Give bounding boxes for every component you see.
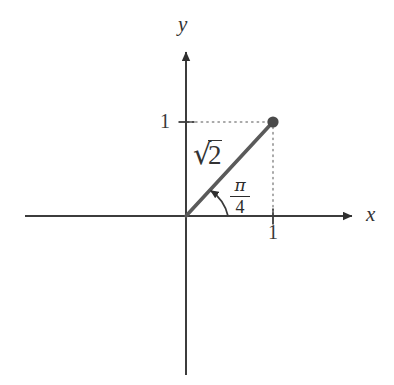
angle-denominator: 4 xyxy=(230,198,250,217)
x-axis-tick-label: 1 xyxy=(268,222,278,242)
magnitude-label: √2 xyxy=(193,140,222,169)
angle-arc xyxy=(211,191,229,217)
y-axis-tick-label: 1 xyxy=(160,111,170,131)
figure-canvas: y x 1 1 √2 π 4 xyxy=(0,0,394,385)
y-axis-label: y xyxy=(178,14,187,35)
angle-label: π 4 xyxy=(230,177,250,217)
radicand-value: 2 xyxy=(208,140,222,169)
coordinate-plot xyxy=(0,0,394,385)
angle-numerator: π xyxy=(230,177,250,195)
x-axis-label: x xyxy=(366,204,375,225)
point-marker xyxy=(267,116,278,127)
